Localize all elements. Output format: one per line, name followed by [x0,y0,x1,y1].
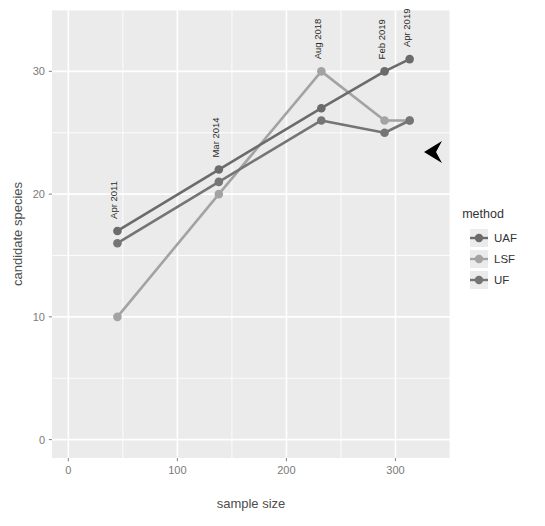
y-tick-label: 10 [33,311,45,323]
data-point [380,116,389,125]
plot-panel-background [52,10,450,458]
legend-label: LSF [494,253,515,265]
point-annotation-label: Aug 2018 [312,19,323,60]
legend-marker [475,255,483,263]
legend-marker [475,276,483,284]
line-chart: Apr 2011Mar 2014Aug 2018Feb 2019Apr 2019… [0,0,545,526]
data-point [113,313,122,322]
point-annotation-label: Mar 2014 [210,117,221,157]
x-tick-label: 100 [168,464,186,476]
data-point [405,116,414,125]
x-tick-label: 200 [277,464,295,476]
data-point [113,227,122,236]
y-axis-title: candidate species [10,181,25,286]
y-tick-label: 30 [33,65,45,77]
data-point [317,116,326,125]
legend-item-uaf[interactable]: UAF [470,229,517,247]
point-annotation-label: Apr 2011 [108,181,119,219]
x-tick-label: 300 [386,464,404,476]
data-point [317,67,326,76]
y-tick-label: 0 [39,434,45,446]
data-point [380,128,389,137]
data-point [215,178,224,187]
x-axis-title: sample size [217,496,286,511]
data-point [405,55,414,64]
data-point [317,104,326,113]
data-point [215,165,224,174]
legend: method UAFLSFUF [462,207,517,289]
x-tick-label: 0 [65,464,71,476]
data-point [380,67,389,76]
legend-marker [475,234,483,242]
point-annotation-label: Feb 2019 [376,19,387,59]
legend-title: method [462,207,504,221]
legend-item-uf[interactable]: UF [470,271,509,289]
data-point [215,190,224,199]
legend-item-lsf[interactable]: LSF [470,250,515,268]
data-point [113,239,122,248]
y-tick-label: 20 [33,188,45,200]
chart-container: Apr 2011Mar 2014Aug 2018Feb 2019Apr 2019… [0,0,545,526]
point-annotation-label: Apr 2019 [401,9,412,48]
legend-label: UF [494,274,509,286]
legend-label: UAF [494,232,517,244]
